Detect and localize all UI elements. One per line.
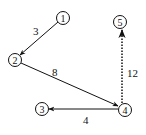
node-label-2: 2	[13, 55, 18, 66]
node-1: 1	[57, 12, 70, 25]
node-2: 2	[9, 54, 22, 67]
node-label-1: 1	[61, 13, 66, 24]
edge-weight-4-5: 12	[127, 67, 138, 79]
node-4: 4	[119, 104, 132, 117]
edge-weight-4-3: 4	[83, 114, 89, 126]
edge-1-to-2: 3	[20, 22, 58, 55]
graph-diagram: 3 8 4 12 1 2 3	[0, 0, 146, 135]
edge-2-to-4: 8	[21, 63, 118, 106]
node-label-5: 5	[118, 17, 123, 28]
node-3: 3	[36, 103, 49, 116]
edge-weight-2-4: 8	[52, 66, 58, 78]
edge-4-to-3: 4	[49, 109, 118, 126]
node-label-3: 3	[40, 104, 45, 115]
edge-weight-1-2: 3	[33, 25, 39, 37]
node-label-4: 4	[123, 105, 128, 116]
node-5: 5	[114, 16, 127, 29]
edge-4-to-5: 12	[122, 30, 138, 103]
